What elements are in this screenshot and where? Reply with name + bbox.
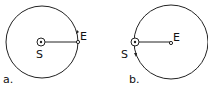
- panel-label-b: b.: [129, 73, 139, 86]
- sun-dot-b: [134, 41, 136, 43]
- panel-a: E S a.: [3, 6, 87, 86]
- diagram-canvas: E S a. E S b.: [0, 0, 208, 92]
- panel-b: E S b.: [121, 5, 208, 86]
- panel-label-a: a.: [3, 73, 13, 86]
- center-label-a: S: [36, 48, 43, 61]
- center-label-b: E: [173, 31, 180, 44]
- orbit-label-b: S: [121, 48, 128, 61]
- orbit-label-a: E: [80, 30, 87, 43]
- sun-dot-a: [40, 41, 42, 43]
